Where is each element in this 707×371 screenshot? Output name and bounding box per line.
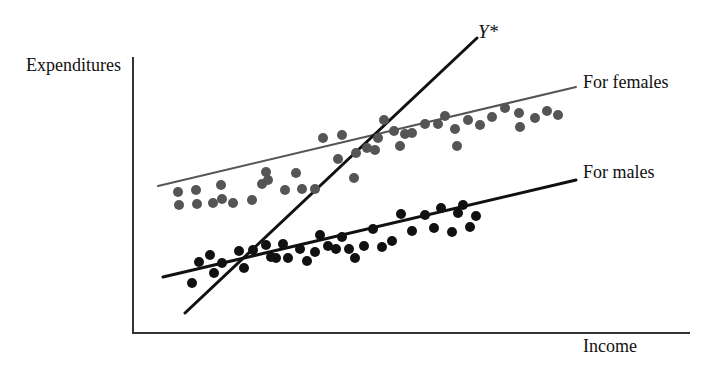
data-point [368, 224, 378, 234]
scatter-plot-figure: Expenditures Income Y* For females For m… [0, 0, 707, 371]
data-point [487, 112, 497, 122]
pooled-regression-line [185, 38, 477, 313]
data-point [530, 113, 540, 123]
data-point [205, 250, 215, 260]
data-point [407, 128, 417, 138]
data-point [263, 175, 273, 185]
data-point [500, 103, 510, 113]
data-point [174, 200, 184, 210]
data-point [514, 108, 524, 118]
data-point [396, 209, 406, 219]
data-point [209, 268, 219, 278]
female-regression-line [158, 87, 576, 186]
data-point [351, 148, 361, 158]
data-point [187, 278, 197, 288]
data-point [337, 232, 347, 242]
data-point [350, 253, 360, 263]
data-point [420, 210, 430, 220]
data-point [310, 184, 320, 194]
data-point [297, 184, 307, 194]
data-point [261, 240, 271, 250]
data-point [373, 133, 383, 143]
data-point [433, 119, 443, 129]
data-point [395, 141, 405, 151]
data-point [463, 115, 473, 125]
data-point [173, 187, 183, 197]
regression-lines [158, 38, 576, 313]
data-point [291, 168, 301, 178]
data-point [447, 227, 457, 237]
data-point [450, 124, 460, 134]
data-point [542, 106, 552, 116]
data-point [228, 198, 238, 208]
data-point [248, 245, 258, 255]
data-point [208, 198, 218, 208]
data-point [217, 258, 227, 268]
data-point [349, 173, 359, 183]
data-point [344, 244, 354, 254]
female-series-label: For females [583, 73, 668, 91]
data-point [515, 122, 525, 132]
data-point [436, 203, 446, 213]
y-axis-label: Expenditures [26, 56, 121, 74]
data-point [216, 180, 226, 190]
data-point [283, 253, 293, 263]
data-point [465, 222, 475, 232]
data-point [234, 246, 244, 256]
data-point [331, 244, 341, 254]
data-point [302, 256, 312, 266]
data-point [315, 230, 325, 240]
data-point [429, 223, 439, 233]
data-point [295, 244, 305, 254]
data-point [387, 236, 397, 246]
data-point [420, 119, 430, 129]
data-point [247, 195, 257, 205]
data-point [271, 253, 281, 263]
data-point [217, 194, 227, 204]
data-point [440, 111, 450, 121]
data-point [194, 257, 204, 267]
data-point [471, 211, 481, 221]
data-point [379, 115, 389, 125]
data-point [239, 263, 249, 273]
data-point [191, 185, 201, 195]
data-point [475, 120, 485, 130]
data-point [192, 199, 202, 209]
data-point [377, 242, 387, 252]
x-axis-label: Income [583, 337, 637, 355]
data-point [337, 130, 347, 140]
pooled-line-label: Y* [478, 22, 498, 41]
data-point [359, 241, 369, 251]
data-point [333, 154, 343, 164]
data-point [278, 239, 288, 249]
data-point [280, 185, 290, 195]
data-point [370, 145, 380, 155]
data-point [389, 126, 399, 136]
male-series-label: For males [583, 163, 655, 181]
data-point [452, 141, 462, 151]
data-point [458, 200, 468, 210]
data-point [407, 226, 417, 236]
data-point [553, 110, 563, 120]
series-for-females [173, 103, 563, 210]
data-point [318, 133, 328, 143]
data-point [310, 247, 320, 257]
